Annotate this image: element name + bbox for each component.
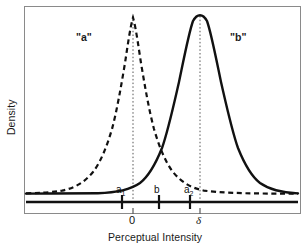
figure-container: Density Perceptual Intensity "a" "b" a1 … (0, 0, 308, 251)
criterion-label-a2-sub: 2 (190, 190, 194, 197)
curve-label-a: "a" (76, 32, 92, 43)
criterion-label-b: b (154, 184, 160, 197)
density-plot (0, 0, 308, 251)
y-axis-label: Density (6, 87, 17, 147)
criterion-label-a1: a1 (116, 184, 125, 197)
axis-label-zero: 0 (129, 214, 135, 226)
curve-label-b: "b" (230, 32, 246, 43)
criterion-label-b-main: b (154, 184, 160, 195)
criterion-label-a2: a2 (184, 184, 193, 197)
criterion-label-a1-sub: 1 (122, 190, 126, 197)
x-axis-label: Perceptual Intensity (108, 232, 202, 243)
axis-label-delta: δ (196, 214, 201, 226)
